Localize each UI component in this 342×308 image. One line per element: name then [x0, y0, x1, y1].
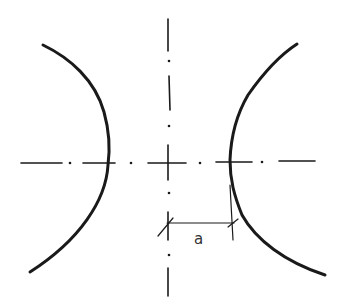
dimension-a: a [158, 185, 238, 248]
hyperbola-diagram: a [0, 0, 342, 308]
vertical-center-line [168, 19, 171, 296]
dimension-label: a [194, 230, 203, 248]
left-hyperbola-branch [30, 45, 109, 272]
dimension-tick-left [158, 218, 173, 236]
extension-line-right [230, 185, 233, 240]
right-hyperbola-branch [230, 44, 325, 275]
